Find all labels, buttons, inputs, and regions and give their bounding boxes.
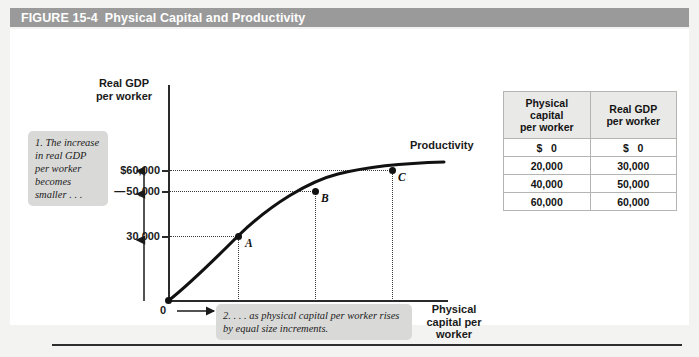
bottom-rule [52,344,682,346]
data-point-a-label: A [245,237,253,249]
y-tick-dash-50000: — [114,185,125,197]
figure-number: FIGURE 15-4 [21,11,98,25]
cell-capital-1: 20,000 [504,157,591,175]
cell-capital-3: 60,000 [504,193,591,211]
th-capital-line2: capital [507,109,587,121]
th-gdp-line2: per worker [594,115,674,127]
data-table: Physical capital per worker Real GDP per… [503,91,677,211]
table-header-row: Physical capital per worker Real GDP per… [504,92,677,139]
table-row: 40,000 50,000 [504,175,677,193]
data-point-a [235,233,242,240]
x-axis-title-line3: worker [414,328,494,341]
y-axis-title-line2: per worker [82,90,166,103]
productivity-curve [160,154,460,309]
figure-title: FIGURE 15-4Physical Capital and Producti… [10,11,305,25]
callout-annotation-1: 1. The increase in real GDP per worker b… [28,131,108,206]
y-axis-increment-arrows [136,162,152,307]
y-axis-title-line1: Real GDP [82,77,166,90]
data-point-b [312,188,319,195]
figure-title-text: Physical Capital and Productivity [105,11,306,25]
cell-gdp-0: $ 0 [590,139,677,157]
curve-origin-point [165,297,172,304]
figure-title-bar: FIGURE 15-4Physical Capital and Producti… [10,8,689,27]
th-capital-line3: per worker [507,121,587,133]
table-row: 60,000 60,000 [504,193,677,211]
cell-gdp-1: 30,000 [590,157,677,175]
cell-capital-0: $ 0 [504,139,591,157]
table-row: 20,000 30,000 [504,157,677,175]
data-point-b-label: B [321,192,329,204]
table-header-physical-capital: Physical capital per worker [504,92,591,139]
figure-container: FIGURE 15-4Physical Capital and Producti… [0,0,699,357]
table-header-real-gdp: Real GDP per worker [590,92,677,139]
data-point-c-label: C [398,171,406,183]
cell-gdp-3: 60,000 [590,193,677,211]
cell-capital-2: 40,000 [504,175,591,193]
data-point-c [389,167,396,174]
th-gdp-line1: Real GDP [594,103,674,115]
cell-gdp-2: 50,000 [590,175,677,193]
th-capital-line1: Physical [507,97,587,109]
y-axis-title: Real GDP per worker [82,77,166,102]
callout-annotation-2: 2. . . . as physical capital per worker … [216,304,412,340]
curve-label: Productivity [410,139,474,151]
table-row: $ 0 $ 0 [504,139,677,157]
chart-canvas: Real GDP per worker Physical capital per… [10,29,689,325]
x-axis-origin-label: 0 [160,304,166,316]
